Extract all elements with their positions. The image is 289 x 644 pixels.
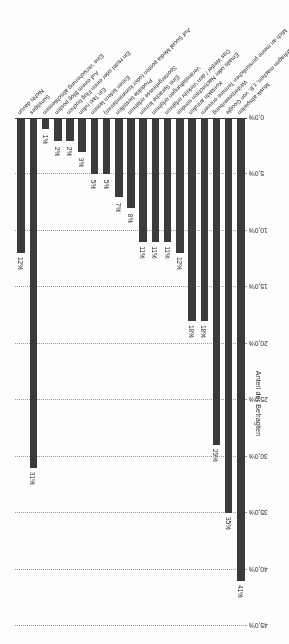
bar-value-label: 11% <box>152 246 159 259</box>
bar-slot: 29% <box>210 118 222 626</box>
bar-slot: 41% <box>235 118 247 626</box>
bar-slot: 35% <box>223 118 235 626</box>
bar-value-label: 5% <box>103 180 110 190</box>
y-axis-tick-label: 20,0% <box>249 340 268 347</box>
bar <box>201 118 209 321</box>
bar-slot: 31% <box>27 118 39 626</box>
bar <box>225 118 233 513</box>
bar-slot: 2% <box>52 118 64 626</box>
bar-slot: 18% <box>198 118 210 626</box>
y-axis-tick-labels: 45,0%40,0%35,0%30,0%25,0%20,0%15,0%10,0%… <box>249 118 275 626</box>
bar-value-label: 12% <box>18 257 25 270</box>
bar-value-label: 31% <box>30 472 37 485</box>
bar-value-label: 5% <box>91 180 98 190</box>
y-axis-tick-label: 5,0% <box>249 171 264 178</box>
bar-slot: 11% <box>162 118 174 626</box>
bar-slot: 5% <box>88 118 100 626</box>
bar-value-label: 11% <box>164 246 171 259</box>
bar-slot: 18% <box>186 118 198 626</box>
bar-chart: Anteil der Befragten 45,0%40,0%35,0%30,0… <box>0 0 289 644</box>
y-axis-tick-label: 25,0% <box>249 397 268 404</box>
bar-slot: 12% <box>174 118 186 626</box>
bar <box>213 118 221 445</box>
bar-slot: 8% <box>125 118 137 626</box>
bar-value-label: 18% <box>189 325 196 338</box>
scanned-page: Anteil der Befragten 45,0%40,0%35,0%30,0… <box>0 0 289 644</box>
category-axis-labels: Musik abspielenSuchanfragen machen, z.B.… <box>15 0 247 118</box>
bar-value-label: 12% <box>176 257 183 270</box>
bar-slot: 3% <box>76 118 88 626</box>
bar-value-label: 41% <box>237 585 244 598</box>
bar-slot: 11% <box>137 118 149 626</box>
bar <box>237 118 245 581</box>
y-axis-tick-label: 15,0% <box>249 284 268 291</box>
bar-slot: 2% <box>64 118 76 626</box>
bar-slot: 11% <box>149 118 161 626</box>
y-axis-tick-label: 30,0% <box>249 453 268 460</box>
bar-value-label: 7% <box>115 203 122 213</box>
bar-value-label: 18% <box>201 325 208 338</box>
plot-area: 41%35%29%18%18%12%11%11%11%8%7%5%5%3%2%2… <box>15 118 247 626</box>
y-axis-tick-label: 35,0% <box>249 510 268 517</box>
y-axis-tick-label: 10,0% <box>249 227 268 234</box>
bar-value-label: 35% <box>225 517 232 530</box>
bar-slot: 5% <box>101 118 113 626</box>
y-axis-tick-label: 40,0% <box>249 566 268 573</box>
bar-value-label: 8% <box>128 214 135 224</box>
y-axis-tick-label: 0,0% <box>249 115 264 122</box>
bar-value-label: 29% <box>213 449 220 462</box>
bar-series: 41%35%29%18%18%12%11%11%11%8%7%5%5%3%2%2… <box>15 118 247 626</box>
bar-value-label: 11% <box>140 246 147 259</box>
y-axis-tick-label: 45,0% <box>249 623 268 630</box>
bar <box>30 118 38 468</box>
bar-slot: 1% <box>40 118 52 626</box>
